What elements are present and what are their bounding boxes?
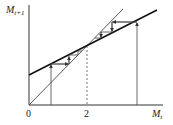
map-line bbox=[29, 10, 157, 75]
identity-line bbox=[29, 9, 123, 105]
x-axis-label: Mt bbox=[151, 108, 163, 121]
equilibrium-label: 2 bbox=[84, 108, 89, 119]
y-axis-label: Mt+1 bbox=[5, 4, 25, 17]
cobweb-diagram: Mt+1 Mt 0 2 bbox=[0, 0, 173, 125]
origin-label: 0 bbox=[26, 108, 31, 119]
